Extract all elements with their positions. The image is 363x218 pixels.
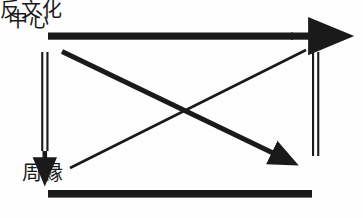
node-label-periphery: 周縁: [22, 163, 64, 183]
connector-left-vertical: [41, 52, 48, 159]
diagram-canvas: 中心 周縁 反文化: [0, 0, 363, 218]
diagram-graphics: [0, 0, 363, 218]
connector-diagonal-descending: [62, 52, 274, 154]
connector-right-vertical: [312, 52, 319, 156]
node-label-counterculture: 反文化: [0, 0, 63, 20]
connector-top-horizontal: [48, 33, 311, 40]
connector-bottom-horizontal: [48, 190, 312, 198]
